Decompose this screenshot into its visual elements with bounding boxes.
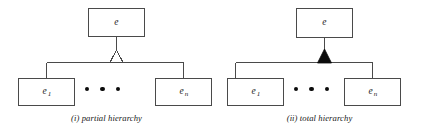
child-entity-label-first: e1	[18, 87, 75, 97]
child-entity-label-last-subscript: n	[185, 91, 189, 98]
ellipsis-dot	[116, 87, 120, 91]
child-entity-label-last-subscript: n	[374, 91, 378, 98]
parent-entity-label-text: e	[322, 18, 326, 28]
parent-entity-label-text: e	[114, 18, 118, 28]
panel-partial-hierarchy: e e1 en (i) partial hierarchy	[0, 0, 213, 132]
panel-caption-partial: (i) partial hierarchy	[0, 113, 213, 123]
ellipsis-dot	[85, 87, 89, 91]
child-entity-label-first-text: e	[251, 87, 255, 97]
filled-triangle-connector	[318, 49, 332, 63]
ellipsis-dot	[309, 87, 313, 91]
hierarchy-figure: e e1 en (i) partial hierarchy	[0, 0, 426, 132]
ellipsis-dot	[325, 87, 329, 91]
child-entity-label-last: en	[155, 87, 212, 97]
panel-caption-total: (ii) total hierarchy	[213, 113, 426, 123]
parent-entity-label: e	[88, 18, 145, 28]
ellipsis-dot	[100, 87, 104, 91]
child-entity-label-first-text: e	[42, 87, 46, 97]
parent-entity-label: e	[296, 18, 353, 28]
child-entity-label-last-text: e	[179, 87, 183, 97]
child-entity-label-last-text: e	[368, 87, 372, 97]
child-entity-label-last: en	[344, 87, 401, 97]
child-entity-label-first-subscript: 1	[257, 91, 261, 98]
panel-total-hierarchy: e e1 en (ii) total hierarchy	[213, 0, 426, 132]
ellipsis-dots	[85, 87, 120, 91]
child-entity-label-first-subscript: 1	[48, 91, 52, 98]
child-entity-label-first: e1	[227, 87, 284, 97]
open-triangle-connector	[110, 50, 123, 63]
ellipsis-dots	[294, 87, 329, 91]
ellipsis-dot	[294, 87, 298, 91]
